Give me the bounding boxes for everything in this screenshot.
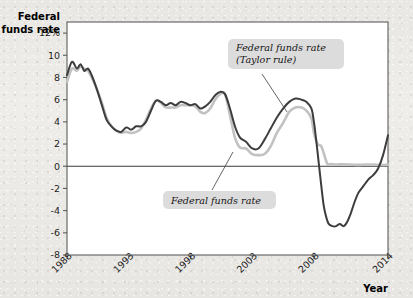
x-axis-ticks: [67, 255, 388, 259]
taylor-rule-callout-line1: Federal funds rate: [235, 42, 326, 53]
y-tick-label-2: 2: [54, 138, 60, 149]
y-axis-title-line1: Federal: [18, 11, 60, 22]
y-tick-label-8: 8: [54, 72, 60, 83]
y-tick-label-6: 6: [54, 94, 60, 105]
y-axis-title-line2: funds rate: [2, 24, 61, 35]
x-axis-title: Year: [362, 283, 388, 294]
y-tick-label--4: -4: [51, 205, 60, 216]
y-tick-label-10: 10: [48, 50, 60, 61]
y-axis-tick-labels: 12%1086420-2-4-6-8: [39, 27, 60, 260]
actual-rate-callout: Federal funds rate: [163, 191, 276, 209]
y-tick-label-4: 4: [54, 116, 60, 127]
y-tick-label--2: -2: [51, 183, 60, 194]
federal-funds-rate-chart: 12%1086420-2-4-6-8 198819931998200320082…: [0, 0, 413, 298]
y-axis-ticks: [63, 33, 67, 255]
taylor-rule-callout-line2: (Taylor rule): [236, 54, 297, 65]
y-tick-label-0: 0: [54, 161, 60, 172]
taylor-rule-callout: Federal funds rate (Taylor rule): [228, 39, 344, 69]
y-tick-label--6: -6: [51, 227, 60, 238]
actual-rate-callout-line1: Federal funds rate: [170, 195, 261, 206]
